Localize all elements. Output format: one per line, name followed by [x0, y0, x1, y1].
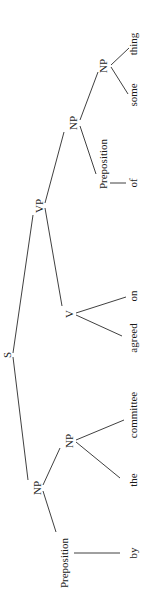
word-of: of — [127, 178, 139, 188]
node-prep-of: Preposition — [97, 138, 109, 189]
node-np-committee: NP — [63, 434, 75, 448]
node-np-object: NP — [67, 116, 79, 130]
edge-np-something-some — [111, 67, 128, 94]
syntax-tree-diagram: S NP Preposition by NP the committee VP … — [0, 0, 155, 596]
node-prep-by: Preposition — [58, 537, 70, 588]
node-np-something: NP — [97, 59, 109, 73]
word-by: by — [127, 547, 139, 559]
word-agreed: agreed — [127, 323, 139, 353]
node-v: V — [63, 310, 75, 318]
word-committee: committee — [127, 392, 139, 439]
edge-np-subject-np-committee — [43, 448, 60, 485]
edge-s-np-subject — [13, 357, 28, 480]
word-on: on — [127, 290, 139, 302]
edge-vp-np-object — [45, 132, 64, 203]
node-s: S — [1, 352, 13, 358]
edge-s-vp — [13, 215, 33, 353]
tree-nodes: S NP Preposition by NP the committee VP … — [1, 32, 139, 588]
word-thing: thing — [127, 32, 139, 55]
edge-v-on — [76, 297, 126, 313]
edge-v-agreed — [76, 315, 122, 336]
word-some: some — [127, 83, 139, 106]
node-vp: VP — [33, 199, 45, 213]
edge-np-object-np-something — [80, 72, 98, 120]
edge-np-subject-prep-by — [43, 491, 56, 532]
edge-np-committee-the — [76, 442, 120, 478]
word-the: the — [127, 473, 139, 487]
node-np-subject: NP — [31, 481, 43, 495]
edge-vp-v — [45, 208, 62, 306]
edge-np-object-prep-of — [80, 126, 96, 174]
edge-np-committee-committee — [76, 420, 124, 440]
